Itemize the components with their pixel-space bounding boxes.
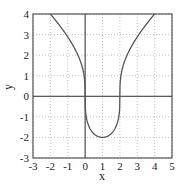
y-axis-label: y [1, 84, 15, 90]
y-tick-label: 1 [24, 70, 30, 82]
y-tick-labels: -3-2-101234 [20, 8, 30, 164]
x-tick-label: -3 [28, 160, 38, 172]
line-chart: -3-2-1012345 -3-2-101234 x y [0, 0, 182, 186]
grid-lines [33, 14, 172, 158]
x-axis-label: x [99, 169, 105, 183]
x-tick-label: -2 [46, 160, 55, 172]
y-tick-label: -2 [20, 131, 29, 143]
y-tick-label: -3 [20, 152, 30, 164]
x-tick-label: 0 [82, 160, 88, 172]
x-tick-label: -1 [63, 160, 72, 172]
x-tick-label: 2 [117, 160, 123, 172]
y-tick-label: -1 [20, 111, 29, 123]
y-tick-label: 0 [24, 90, 30, 102]
y-tick-label: 2 [24, 49, 30, 61]
x-tick-label: 3 [135, 160, 141, 172]
y-tick-label: 4 [24, 8, 30, 20]
x-tick-label: 5 [169, 160, 175, 172]
y-tick-label: 3 [24, 29, 30, 41]
x-tick-label: 4 [152, 160, 158, 172]
